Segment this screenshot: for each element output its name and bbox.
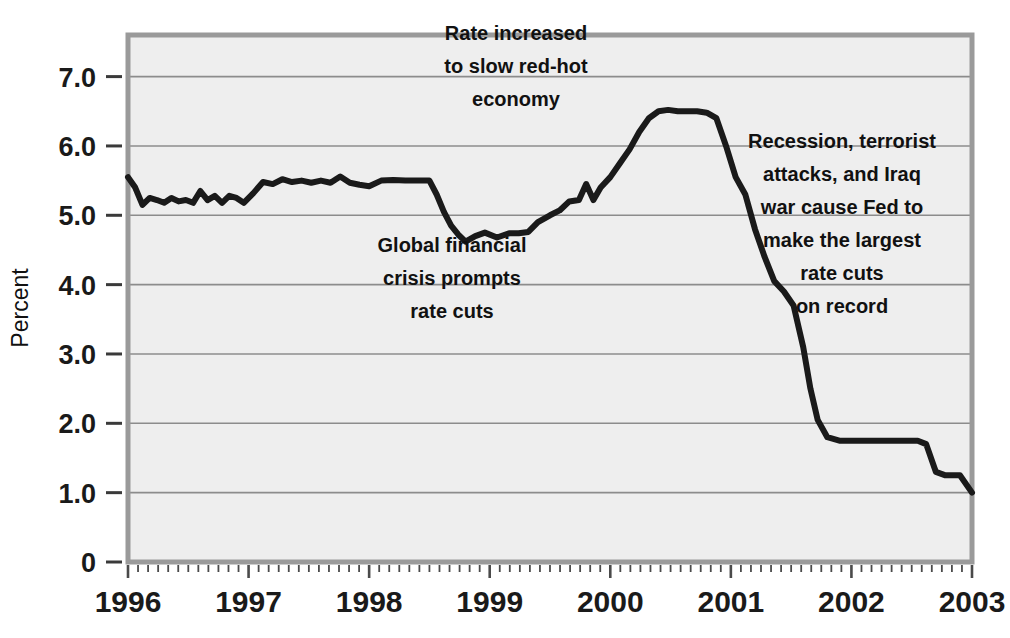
y-tick-label-0: 0 [81,548,96,578]
annotation-line: Global financial [378,234,527,256]
y-axis-tick-marks [106,77,122,562]
x-tick-label-1999: 1999 [456,585,523,618]
fed-funds-rate-line-chart: 7.06.05.04.03.02.01.00 19961997199819992… [0,0,1010,638]
annotation-line: war cause Fed to [760,196,923,218]
annotation-line: attacks, and Iraq [763,163,921,185]
annotation-line: make the largest [763,229,921,251]
y-tick-label-7.0: 7.0 [58,63,96,93]
y-tick-label-5.0: 5.0 [58,201,96,231]
annotation-line: rate cuts [800,262,883,284]
annotation-line: Recession, terrorist [748,130,936,152]
annotation-line: Rate increased [445,22,587,44]
y-tick-label-1.0: 1.0 [58,479,96,509]
x-tick-label-1998: 1998 [336,585,403,618]
annotation-line: rate cuts [410,300,493,322]
chart-figure: 7.06.05.04.03.02.01.00 19961997199819992… [0,0,1010,638]
x-tick-label-1996: 1996 [95,585,162,618]
y-tick-label-3.0: 3.0 [58,340,96,370]
y-tick-label-4.0: 4.0 [58,271,96,301]
x-tick-label-2002: 2002 [818,585,885,618]
x-tick-label-2001: 2001 [697,585,764,618]
y-tick-label-6.0: 6.0 [58,132,96,162]
annotation-line: economy [472,88,561,110]
y-axis-tick-labels: 7.06.05.04.03.02.01.00 [58,63,96,578]
x-tick-label-2003: 2003 [939,585,1006,618]
annotation-line: to slow red-hot [444,55,588,77]
x-tick-label-1997: 1997 [215,585,282,618]
annotation-line: on record [796,295,888,317]
y-axis-title: Percent [7,268,33,348]
annotation-line: crisis prompts [383,267,521,289]
y-tick-label-2.0: 2.0 [58,409,96,439]
x-tick-label-2000: 2000 [577,585,644,618]
x-axis-tick-labels: 19961997199819992000200120022003 [95,585,1006,618]
x-axis-tick-marks [128,565,972,578]
